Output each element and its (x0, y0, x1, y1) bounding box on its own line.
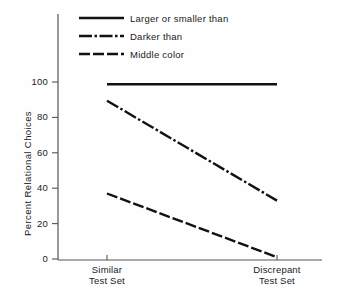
legend-label-darker-than: Darker than (130, 31, 182, 42)
x-tick-label-similar: Similar Test Set (67, 264, 147, 286)
x-tick-label-discrepant: Discrepant Test Set (233, 264, 321, 286)
y-tick-label-0: 0 (22, 253, 48, 264)
line-chart-canvas (0, 0, 338, 301)
series-line-darker-than (107, 101, 277, 201)
series-line-middle-color (107, 194, 277, 258)
legend-label-larger-or-smaller-than: Larger or smaller than (130, 13, 228, 24)
legend-label-middle-color: Middle color (130, 49, 184, 60)
y-tick-label-80: 80 (22, 111, 48, 122)
y-tick-label-20: 20 (22, 218, 48, 229)
y-tick-label-100: 100 (22, 76, 48, 87)
y-tick-label-60: 60 (22, 147, 48, 158)
y-tick-label-40: 40 (22, 182, 48, 193)
chart-figure: Percent Relational Choices 0 20 40 60 80… (0, 0, 338, 301)
